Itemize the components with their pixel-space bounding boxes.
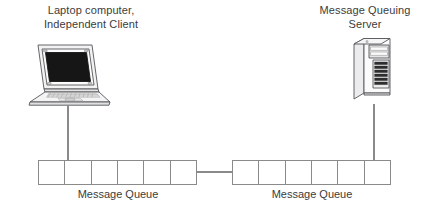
queue-boxes [0, 0, 430, 209]
queue-right-caption: Message Queue [232, 187, 392, 201]
queue-left [39, 161, 197, 185]
queue-right [233, 161, 391, 185]
message-queuing-diagram: Laptop computer, Independent Client Mess… [0, 0, 430, 209]
queue-left-caption: Message Queue [38, 187, 198, 201]
